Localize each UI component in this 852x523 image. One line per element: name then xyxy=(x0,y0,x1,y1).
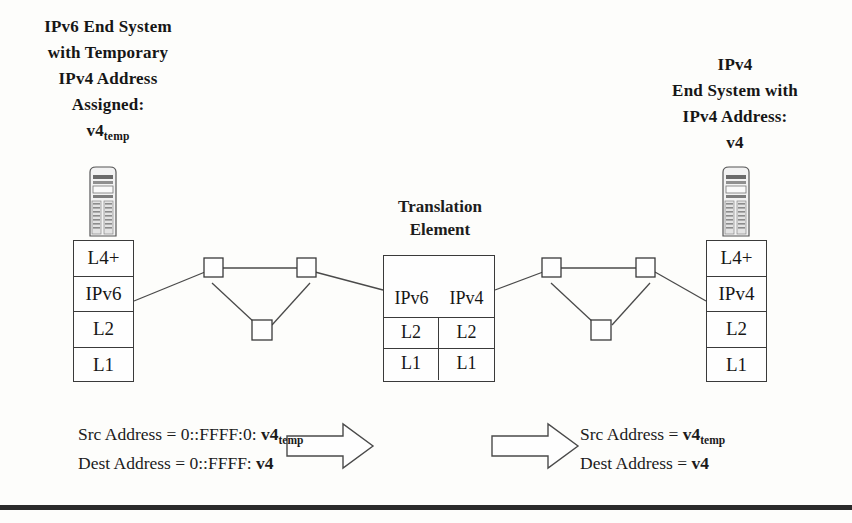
left-address-annotations: Src Address = 0::FFFF:0: v4temp Dest Add… xyxy=(78,421,303,477)
stack-layer-ipv4: IPv4 xyxy=(707,277,766,313)
caption-line: v4 xyxy=(635,130,835,156)
translation-cell-ipv4: IPv4 xyxy=(439,255,494,317)
right-protocol-stack: L4+ IPv4 L2 L1 xyxy=(706,240,767,382)
left-src-address-prefix: Src Address = 0::FFFF:0: xyxy=(78,424,261,444)
right-dest-address-value: v4 xyxy=(691,453,709,473)
caption-line: Assigned: xyxy=(8,92,208,118)
caption-line: Element xyxy=(365,218,515,241)
link-router-6-to-router-5 xyxy=(612,283,650,325)
translation-row-l2: L2 L2 xyxy=(384,318,494,349)
left-temp-address-subscript: temp xyxy=(104,130,130,142)
stack-layer-l4plus: L4+ xyxy=(74,241,133,277)
caption-line: IPv4 xyxy=(635,52,835,78)
left-src-address-subscript: temp xyxy=(278,434,303,446)
right-src-address-subscript: temp xyxy=(700,434,725,446)
link-translation-to-router-4 xyxy=(495,272,543,290)
left-src-address-line: Src Address = 0::FFFF:0: v4temp xyxy=(78,421,303,450)
caption-line: IPv4 Address xyxy=(8,66,208,92)
diagram-canvas: IPv6 End System with Temporary IPv4 Addr… xyxy=(0,0,852,523)
left-dest-address-prefix: Dest Address = 0::FFFF: xyxy=(78,453,256,473)
translation-cell-l2-right: L2 xyxy=(439,318,494,348)
left-temp-address-base: v4 xyxy=(86,121,103,140)
right-dest-address-line: Dest Address = v4 xyxy=(580,450,725,477)
left-protocol-stack: L4+ IPv6 L2 L1 xyxy=(73,240,134,382)
stack-layer-l1: L1 xyxy=(74,348,133,384)
caption-line: End System with xyxy=(635,78,835,104)
link-router-3-to-router-2 xyxy=(272,283,310,325)
router-1 xyxy=(204,258,223,277)
caption-line: Translation xyxy=(365,195,515,218)
router-3 xyxy=(252,320,272,340)
caption-line: with Temporary xyxy=(8,40,208,66)
router-6 xyxy=(591,320,611,340)
translation-cell-l1-right: L1 xyxy=(439,349,494,380)
right-end-system-caption: IPv4 End System with IPv4 Address: v4 xyxy=(635,52,835,156)
stack-layer-l2: L2 xyxy=(74,312,133,348)
router-5 xyxy=(636,258,655,277)
left-temp-address: v4temp xyxy=(8,118,208,145)
translation-element-box: IPv6 IPv4 L2 L2 L1 L1 xyxy=(383,255,495,382)
router-2 xyxy=(297,258,316,277)
left-src-address-value: v4 xyxy=(261,424,279,444)
bottom-horizontal-rule xyxy=(0,505,852,510)
right-flow-arrow-icon xyxy=(492,424,578,468)
router-4 xyxy=(542,258,561,277)
server-tower-icon xyxy=(714,164,758,240)
translation-cell-ipv6: IPv6 xyxy=(384,255,439,317)
stack-layer-ipv6: IPv6 xyxy=(74,277,133,313)
left-end-system-caption: IPv6 End System with Temporary IPv4 Addr… xyxy=(8,14,208,145)
right-src-address-value: v4 xyxy=(683,424,701,444)
link-router-1-to-router-3 xyxy=(212,283,255,323)
right-dest-address-prefix: Dest Address = xyxy=(580,453,691,473)
left-dest-address-value: v4 xyxy=(256,453,274,473)
translation-element-caption: Translation Element xyxy=(365,195,515,241)
link-host-to-router-1 xyxy=(134,272,205,301)
caption-line: IPv4 Address: xyxy=(635,104,835,130)
link-router-4-to-router-6 xyxy=(551,283,594,323)
translation-cell-l1-left: L1 xyxy=(384,349,439,380)
stack-layer-l1: L1 xyxy=(707,348,766,384)
right-src-address-line: Src Address = v4temp xyxy=(580,421,725,450)
right-address-annotations: Src Address = v4temp Dest Address = v4 xyxy=(580,421,725,477)
server-tower-icon xyxy=(81,164,125,240)
translation-row-l1: L1 L1 xyxy=(384,349,494,380)
link-router-2-to-translation xyxy=(315,272,383,290)
caption-line: IPv6 End System xyxy=(8,14,208,40)
stack-layer-l2: L2 xyxy=(707,312,766,348)
left-dest-address-line: Dest Address = 0::FFFF: v4 xyxy=(78,450,303,477)
right-src-address-prefix: Src Address = xyxy=(580,424,683,444)
translation-cell-l2-left: L2 xyxy=(384,318,439,348)
link-router-5-to-host xyxy=(655,272,706,301)
stack-layer-l4plus: L4+ xyxy=(707,241,766,277)
translation-row-network: IPv6 IPv4 xyxy=(384,256,494,318)
